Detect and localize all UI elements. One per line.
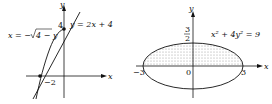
left-y-intercept-label: 4 (58, 21, 63, 30)
left-figure: x y 4 −2 y = 2x + 4 x = − 4 − y (8, 0, 113, 99)
svg-text:3: 3 (185, 25, 190, 34)
parabola-equation-label: x = − 4 − y (8, 29, 58, 40)
right-y-axis-label: y (188, 4, 194, 13)
right-vertex-label: 3 (241, 68, 246, 77)
ellipse-equation-label: x² + 4y² = 9 (211, 30, 260, 39)
right-x-axis-arrow-icon (257, 64, 263, 68)
line-equation-label: y = 2x + 4 (69, 20, 113, 29)
left-x-intercept-label: −2 (44, 78, 56, 87)
svg-text:2: 2 (185, 34, 190, 43)
right-figure: x y 3 2 x² + 4y² = 9 −3 3 0 (133, 4, 269, 98)
left-y-axis-label: y (59, 0, 65, 9)
top-fraction-label: 3 2 (184, 25, 190, 43)
intersection-point-bottom (38, 74, 42, 78)
left-vertex-label: −3 (133, 68, 145, 77)
left-x-axis-arrow-icon (101, 74, 107, 78)
right-x-axis-label: x (264, 62, 269, 71)
origin-label: 0 (186, 68, 191, 77)
svg-text:x = −: x = − (8, 31, 31, 40)
svg-text:4 − y: 4 − y (35, 31, 58, 40)
left-x-axis-label: x (108, 72, 113, 81)
figure-canvas: x y 4 −2 y = 2x + 4 x = − 4 − y x (0, 0, 272, 104)
